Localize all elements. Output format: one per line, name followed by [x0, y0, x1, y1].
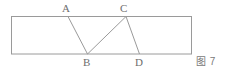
segment-ab — [68, 17, 88, 55]
segment-bc — [88, 17, 127, 55]
figure-canvas — [0, 0, 226, 72]
vertex-label-d: D — [135, 57, 143, 68]
segment-cd — [126, 17, 140, 55]
vertex-label-b: B — [83, 57, 90, 68]
geometry-figure: A B C D 图 7 — [0, 0, 226, 72]
vertex-label-a: A — [62, 3, 70, 14]
figure-caption: 图 7 — [196, 57, 216, 67]
outer-rectangle — [12, 17, 192, 55]
vertex-label-c: C — [120, 3, 127, 14]
